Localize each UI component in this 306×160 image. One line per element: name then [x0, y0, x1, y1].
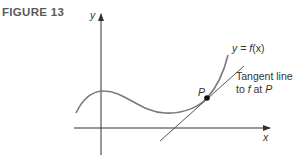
point-p [204, 95, 210, 101]
tangent-label-line1: Tangent line [236, 70, 293, 82]
point-p-label: P [198, 86, 205, 98]
tangent-line [160, 66, 244, 141]
x-axis-label: x [262, 131, 269, 143]
tangent-label-line2: to f at P [236, 83, 272, 95]
tangent-diagram: y x P y = f(x) Tangent line to f at P [0, 0, 306, 160]
y-axis-label: y [89, 9, 96, 21]
function-curve [76, 55, 228, 113]
curve-label: y = f(x) [231, 42, 264, 54]
